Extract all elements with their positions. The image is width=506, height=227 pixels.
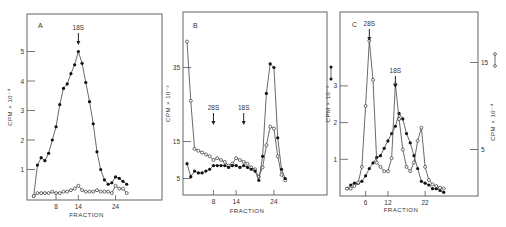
data-point (51, 190, 54, 193)
data-point (201, 151, 204, 154)
data-point (405, 165, 408, 168)
data-point (409, 170, 412, 173)
data-point (186, 40, 189, 43)
data-point (272, 66, 275, 69)
data-point (439, 186, 442, 189)
data-point (66, 190, 69, 193)
y-tick-label: 3 (20, 107, 24, 114)
panel-label: A (38, 22, 43, 29)
data-point (420, 180, 423, 183)
data-point (261, 166, 264, 169)
x-tick-label: 22 (422, 199, 430, 206)
data-point (43, 159, 46, 162)
x-axis-label: FRACTION (69, 212, 104, 218)
svg-text:28S: 28S (364, 20, 376, 27)
data-point (62, 87, 65, 90)
data-point (216, 164, 219, 167)
series-open (346, 39, 446, 190)
data-point (227, 166, 230, 169)
data-point (197, 149, 200, 152)
data-point (246, 166, 249, 169)
data-point (114, 175, 117, 178)
data-point (386, 139, 389, 142)
panel-c: C61222FRACTION123CPM × 10⁻³515CPM × 10⁻⁴… (325, 12, 496, 213)
y-tick-label: 15 (173, 138, 181, 145)
y-axis-label: CPM × 10⁻³ (165, 85, 171, 122)
annotation-arrow-18s: 18S (390, 67, 402, 88)
data-point (77, 50, 80, 53)
data-point (219, 164, 222, 167)
svg-text:18S: 18S (73, 24, 85, 31)
annotation-arrow-18s: 18S (73, 24, 85, 45)
data-point (99, 168, 102, 171)
data-point (261, 155, 264, 158)
panel-label: B (193, 22, 198, 29)
data-point (36, 192, 39, 195)
data-point (265, 92, 268, 95)
data-point (204, 153, 207, 156)
data-point (424, 182, 427, 185)
data-point (265, 144, 268, 147)
y-tick-label: 2 (20, 137, 24, 144)
data-point (401, 117, 404, 120)
data-point (398, 118, 401, 121)
annotation-arrow-28s: 28S (364, 20, 376, 41)
data-point (77, 184, 80, 187)
x-tick-label: 24 (270, 198, 278, 205)
data-point (383, 147, 386, 150)
x-axis-label: FRACTION (230, 208, 265, 214)
data-point (280, 168, 283, 171)
data-point (40, 192, 43, 195)
data-point (216, 157, 219, 160)
data-point (47, 152, 50, 155)
data-point (427, 178, 430, 181)
y-axis-label: CPM × 10⁻³ (325, 86, 331, 123)
data-point (269, 125, 272, 128)
data-point (118, 177, 121, 180)
data-point (360, 180, 363, 183)
data-point (118, 187, 121, 190)
data-point (375, 161, 378, 164)
y-tick-label: 1 (20, 166, 24, 173)
data-point (193, 170, 196, 173)
data-point (242, 160, 245, 163)
data-point (62, 190, 65, 193)
data-point (412, 161, 415, 164)
data-point (238, 159, 241, 162)
data-point (88, 100, 91, 103)
data-point (349, 187, 352, 190)
data-point (371, 161, 374, 164)
data-point (427, 183, 430, 186)
panel-a: A81424FRACTION12345CPM × 10⁻⁴18S (7, 14, 162, 218)
data-point (99, 190, 102, 193)
data-point (51, 138, 54, 141)
data-point (431, 187, 434, 190)
panel-label: C (352, 21, 357, 28)
data-point (409, 141, 412, 144)
data-point (435, 185, 438, 188)
data-point (257, 179, 260, 182)
data-point (58, 103, 61, 106)
svg-text:28S: 28S (208, 104, 220, 111)
data-point (364, 105, 367, 108)
data-point (47, 192, 50, 195)
data-point (250, 168, 253, 171)
data-point (364, 174, 367, 177)
legend-filled-key (330, 66, 333, 81)
data-point (69, 72, 72, 75)
data-point (208, 168, 211, 171)
data-point (84, 190, 87, 193)
series-open (32, 184, 128, 197)
data-point (66, 82, 69, 85)
data-point (242, 164, 245, 167)
data-point (81, 189, 84, 192)
data-point (73, 187, 76, 190)
data-point (55, 192, 58, 195)
data-point (84, 81, 87, 84)
data-point (383, 170, 386, 173)
data-point (58, 192, 61, 195)
data-point (253, 170, 256, 173)
data-point (284, 177, 287, 180)
y-tick-label: 35 (173, 64, 181, 71)
data-point (235, 164, 238, 167)
